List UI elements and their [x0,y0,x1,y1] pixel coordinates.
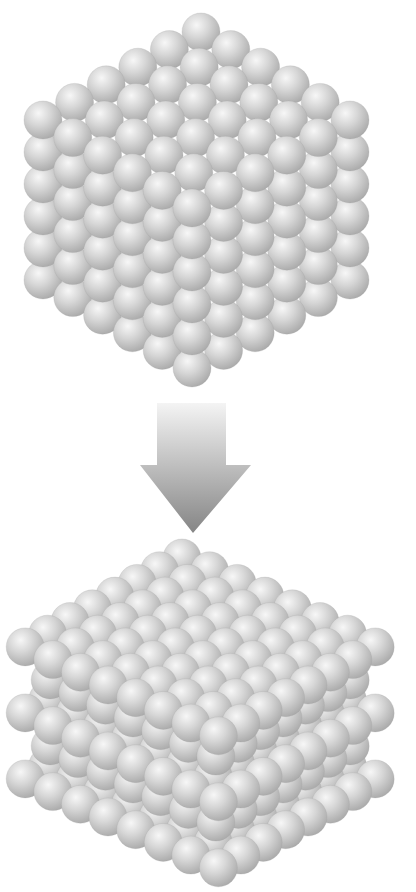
sphere-atom [173,189,211,227]
sphere-atom [199,717,237,755]
sphere-atom [199,783,237,821]
arrow-shape [140,403,251,533]
down-arrow-icon [140,403,251,533]
figure-canvas [0,0,416,892]
diagram-svg [0,0,416,892]
cubic-lattice-block [24,13,369,387]
cropped-caption-fragment [130,0,300,4]
layered-close-packed-slab [6,539,394,887]
sphere-atom [199,849,237,887]
